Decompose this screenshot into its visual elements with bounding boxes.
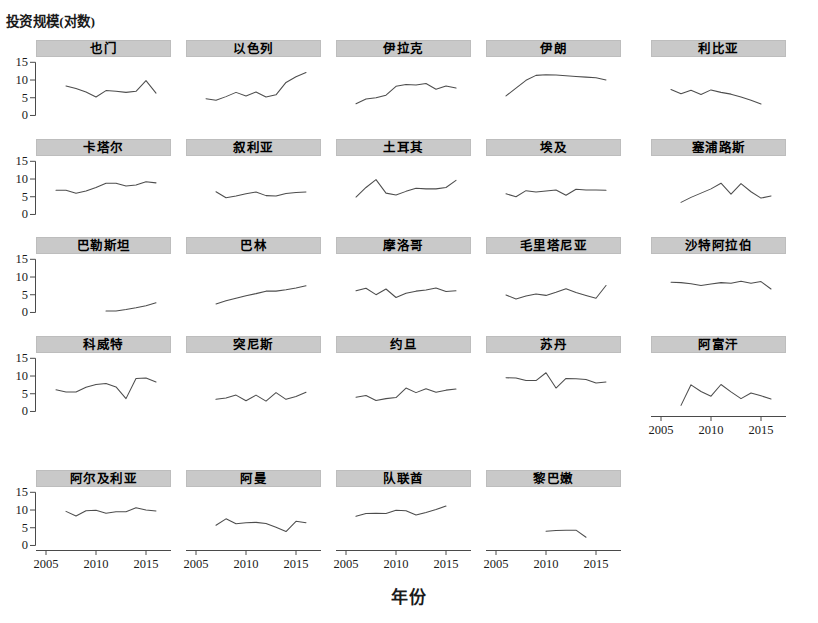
panel-阿富汗: 阿富汗	[651, 336, 786, 415]
series-line	[681, 384, 771, 405]
series-line	[356, 84, 456, 104]
panel-plot-area	[336, 255, 471, 317]
y-tick-label: 10	[16, 370, 29, 383]
panel-苏丹: 苏丹	[486, 336, 621, 415]
series-line	[356, 180, 456, 197]
panel-strip-label: 队联酋	[336, 470, 471, 487]
panel-以色列: 以色列	[186, 40, 321, 119]
x-tick-label: 2005	[184, 558, 209, 571]
x-axis-col-3: 200520102015	[336, 550, 471, 576]
y-tick-label: 0	[22, 306, 28, 319]
panel-毛里塔尼亚: 毛里塔尼亚	[486, 237, 621, 316]
x-tick-label: 2015	[284, 558, 309, 571]
panel-plot-area	[651, 255, 786, 317]
series-line	[106, 303, 156, 311]
panel-plot-area	[186, 488, 321, 550]
y-tick-label: 0	[22, 208, 28, 221]
panel-plot-area	[651, 157, 786, 219]
y-tick-label: 0	[22, 539, 28, 552]
panel-队联酋: 队联酋	[336, 470, 471, 549]
panel-plot-area	[486, 488, 621, 550]
y-axis-row-4: 051015	[2, 353, 36, 415]
panel-strip-label: 突尼斯	[186, 336, 321, 353]
panel-strip-label: 科威特	[36, 336, 171, 353]
panel-plot-area	[186, 354, 321, 416]
series-line	[56, 182, 156, 193]
series-line	[216, 286, 306, 304]
trellis-panel-grid: 也门以色列伊拉克伊朗利比亚卡塔尔叙利亚土耳其埃及塞浦路斯巴勒斯坦巴林摩洛哥毛里塔…	[0, 0, 818, 623]
panel-塞浦路斯: 塞浦路斯	[651, 139, 786, 218]
panel-strip-label: 也门	[36, 40, 171, 57]
y-tick-label: 10	[16, 173, 29, 186]
panel-strip-label: 埃及	[486, 139, 621, 156]
y-tick-label: 10	[16, 271, 29, 284]
panel-strip-label: 叙利亚	[186, 139, 321, 156]
x-tick-label: 2005	[484, 558, 509, 571]
series-line	[671, 281, 771, 289]
panel-plot-area	[336, 354, 471, 416]
panel-阿尔及利亚: 阿尔及利亚	[36, 470, 171, 549]
series-line	[356, 288, 456, 298]
panel-strip-label: 土耳其	[336, 139, 471, 156]
panel-strip-label: 阿富汗	[651, 336, 786, 353]
y-tick-label: 5	[22, 191, 28, 204]
y-tick-label: 15	[16, 486, 29, 499]
x-tick-label: 2005	[34, 558, 59, 571]
x-tick-label: 2010	[534, 558, 559, 571]
y-tick-label: 5	[22, 289, 28, 302]
panel-plot-area	[336, 58, 471, 120]
y-tick-label: 5	[22, 388, 28, 401]
panel-plot-area	[486, 58, 621, 120]
x-tick-label: 2010	[384, 558, 409, 571]
x-tick-label: 2010	[84, 558, 109, 571]
panel-黎巴嫩: 黎巴嫩	[486, 470, 621, 549]
series-line	[216, 392, 306, 401]
panel-plot-area	[486, 157, 621, 219]
panel-巴林: 巴林	[186, 237, 321, 316]
series-line	[356, 506, 446, 516]
panel-阿曼: 阿曼	[186, 470, 321, 549]
panel-土耳其: 土耳其	[336, 139, 471, 218]
series-line	[206, 73, 306, 101]
panel-伊拉克: 伊拉克	[336, 40, 471, 119]
y-axis-row-3: 051015	[2, 254, 36, 316]
series-line	[216, 519, 306, 532]
panel-卡塔尔: 卡塔尔	[36, 139, 171, 218]
y-tick-label: 15	[16, 56, 29, 69]
panel-plot-area	[36, 488, 171, 550]
y-axis-row-1: 051015	[2, 57, 36, 119]
panel-strip-label: 巴林	[186, 237, 321, 254]
panel-利比亚: 利比亚	[651, 40, 786, 119]
series-line	[506, 285, 606, 298]
panel-科威特: 科威特	[36, 336, 171, 415]
panel-plot-area	[36, 354, 171, 416]
series-line	[681, 183, 771, 202]
panel-strip-label: 约旦	[336, 336, 471, 353]
series-line	[506, 373, 606, 388]
y-axis-row-5: 051015	[2, 487, 36, 549]
x-axis-col-5: 200520102015	[651, 416, 786, 442]
panel-strip-label: 卡塔尔	[36, 139, 171, 156]
panel-plot-area	[486, 255, 621, 317]
x-tick-label: 2015	[749, 424, 774, 437]
panel-摩洛哥: 摩洛哥	[336, 237, 471, 316]
y-tick-label: 15	[16, 352, 29, 365]
panel-plot-area	[186, 255, 321, 317]
series-line	[66, 508, 156, 516]
panel-约旦: 约旦	[336, 336, 471, 415]
panel-plot-area	[336, 488, 471, 550]
panel-strip-label: 沙特阿拉伯	[651, 237, 786, 254]
y-tick-label: 15	[16, 155, 29, 168]
panel-plot-area	[486, 354, 621, 416]
series-line	[506, 189, 606, 196]
x-tick-label: 2015	[434, 558, 459, 571]
panel-strip-label: 毛里塔尼亚	[486, 237, 621, 254]
panel-突尼斯: 突尼斯	[186, 336, 321, 415]
panel-plot-area	[186, 58, 321, 120]
y-tick-label: 5	[22, 92, 28, 105]
panel-strip-label: 伊拉克	[336, 40, 471, 57]
x-axis-col-1: 200520102015	[36, 550, 171, 576]
x-axis-col-2: 200520102015	[186, 550, 321, 576]
panel-strip-label: 以色列	[186, 40, 321, 57]
y-tick-label: 15	[16, 253, 29, 266]
